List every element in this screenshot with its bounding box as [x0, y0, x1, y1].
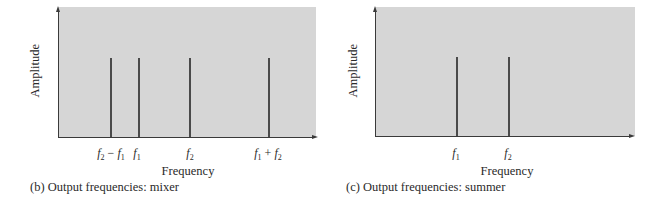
tick-f2: f2 [504, 146, 511, 162]
spike-f2 [508, 57, 510, 136]
summer-y-axis-arrow-icon [373, 6, 377, 12]
mixer-panel: Amplitude f2 − f1 f1 f2 f1 + f2 Frequenc… [0, 0, 330, 197]
spike-f1 [138, 58, 140, 137]
tick-f1: f1 [452, 146, 459, 162]
summer-y-axis [375, 9, 376, 136]
mixer-x-axis-arrow-icon [312, 135, 318, 139]
mixer-y-axis-arrow-icon [56, 6, 60, 12]
tick-f2: f2 [186, 146, 193, 162]
tick-f1: f1 [133, 146, 140, 162]
summer-x-axis-arrow-icon [629, 134, 635, 138]
mixer-plot-area [58, 7, 316, 137]
summer-y-axis-label: Amplitude [346, 48, 361, 98]
spike-f2 [189, 58, 191, 137]
spike-f1-plus-f2 [268, 58, 270, 137]
tick-f1-plus-f2: f1 + f2 [254, 146, 281, 162]
mixer-y-axis [58, 9, 59, 137]
spike-f2-minus-f1 [110, 58, 112, 137]
summer-caption: (c) Output frequencies: summer [346, 180, 505, 195]
summer-x-axis-label: Frequency [481, 164, 534, 179]
spike-f1 [456, 57, 458, 136]
mixer-x-axis-label: Frequency [162, 164, 215, 179]
summer-plot-area [375, 7, 635, 136]
summer-x-axis [375, 136, 631, 137]
mixer-y-axis-label: Amplitude [28, 48, 43, 98]
mixer-caption: (b) Output frequencies: mixer [30, 180, 179, 195]
tick-f2-minus-f1: f2 − f1 [97, 146, 124, 162]
summer-panel: Amplitude f1 f2 Frequency (c) Output fre… [330, 0, 660, 197]
mixer-x-axis [58, 137, 314, 138]
